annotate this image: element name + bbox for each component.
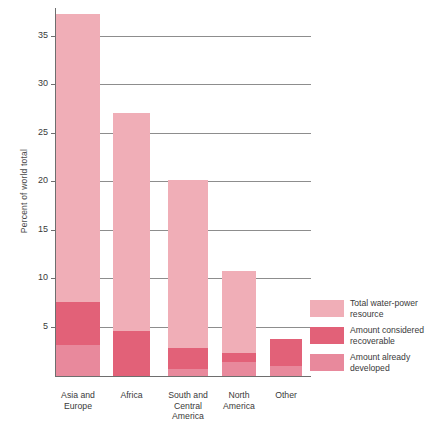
y-axis-tick-label: 35 (26, 30, 48, 40)
bar-group (113, 113, 150, 376)
legend-swatch (310, 327, 344, 344)
y-axis-tick-label: 5 (26, 321, 48, 331)
y-axis-tick-label: 30 (26, 78, 48, 88)
y-axis-tick-label: 25 (26, 127, 48, 137)
bar-group (270, 339, 302, 376)
bar-group (222, 271, 256, 376)
y-axis-tick-label: 20 (26, 175, 48, 185)
chart-legend: Total water-power resourceAmount conside… (310, 298, 440, 379)
legend-item: Total water-power resource (310, 298, 440, 324)
bar-group (168, 180, 208, 376)
legend-swatch (310, 300, 344, 317)
bar-segment-dev (168, 369, 208, 376)
legend-label: Total water-power resource (350, 298, 442, 319)
y-axis-tick-label: 15 (26, 224, 48, 234)
bar-group (56, 14, 100, 376)
legend-item: Amount considered recoverable (310, 325, 440, 351)
bar-segment-dev (56, 345, 100, 376)
y-axis-tick-label: 10 (26, 272, 48, 282)
x-axis-line (55, 376, 311, 377)
legend-label: Amount already developed (350, 352, 442, 373)
legend-item: Amount already developed (310, 352, 440, 378)
legend-label: Amount considered recoverable (350, 325, 442, 346)
bar-segment-recov (113, 331, 150, 376)
bar-segment-total (168, 180, 208, 376)
bar-segment-dev (222, 362, 256, 376)
legend-swatch (310, 354, 344, 371)
x-axis-label: Other (256, 390, 316, 401)
bar-segment-dev (270, 366, 302, 376)
plot-area: 5101520253035 Asia andEuropeAfricaSouth … (56, 8, 311, 376)
